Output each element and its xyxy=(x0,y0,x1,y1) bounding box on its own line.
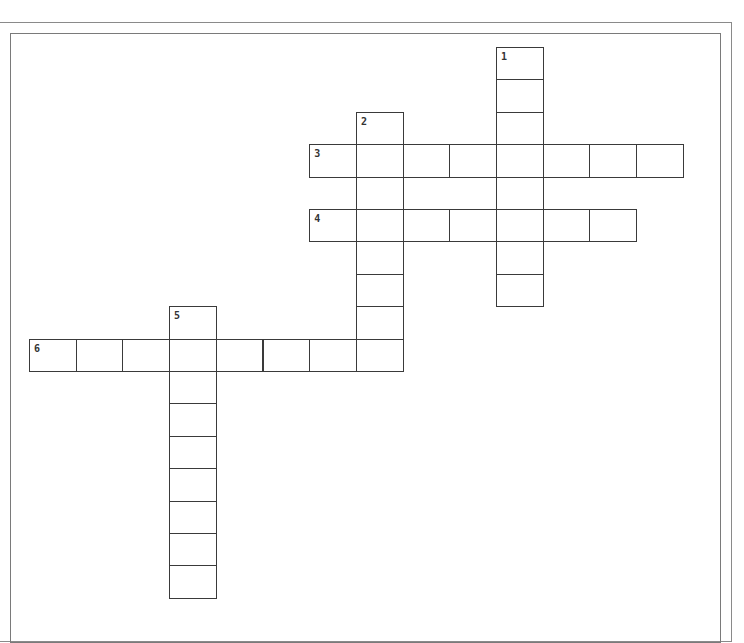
crossword-cell[interactable]: 2 xyxy=(356,112,404,145)
crossword-cell[interactable] xyxy=(169,565,217,598)
crossword-cell[interactable] xyxy=(496,177,544,210)
cell-letter-input[interactable] xyxy=(357,113,403,144)
crossword-cell[interactable] xyxy=(169,501,217,534)
crossword-cell[interactable]: 6 xyxy=(29,339,77,372)
cell-letter-input[interactable] xyxy=(357,340,403,371)
crossword-cell[interactable] xyxy=(356,209,404,242)
crossword-cell[interactable] xyxy=(496,274,544,307)
crossword-cell[interactable] xyxy=(169,436,217,469)
cell-letter-input[interactable] xyxy=(497,242,543,273)
crossword-cell[interactable] xyxy=(356,339,404,372)
crossword-cell[interactable] xyxy=(169,533,217,566)
cell-letter-input[interactable] xyxy=(357,178,403,209)
cell-letter-input[interactable] xyxy=(217,340,263,371)
crossword-cell[interactable] xyxy=(589,209,637,242)
cell-letter-input[interactable] xyxy=(170,372,216,403)
crossword-cell[interactable] xyxy=(636,144,684,177)
cell-letter-input[interactable] xyxy=(310,340,356,371)
crossword-cell[interactable] xyxy=(169,468,217,501)
crossword-cell[interactable] xyxy=(356,144,404,177)
crossword-cell[interactable] xyxy=(543,209,591,242)
cell-letter-input[interactable] xyxy=(450,210,496,241)
cell-letter-input[interactable] xyxy=(404,210,450,241)
cell-letter-input[interactable] xyxy=(170,469,216,500)
crossword-cell[interactable] xyxy=(496,209,544,242)
crossword-cell[interactable] xyxy=(496,144,544,177)
cell-letter-input[interactable] xyxy=(590,145,636,176)
cell-letter-input[interactable] xyxy=(357,275,403,306)
crossword-cell[interactable] xyxy=(449,209,497,242)
cell-letter-input[interactable] xyxy=(357,242,403,273)
cell-letter-input[interactable] xyxy=(170,534,216,565)
cell-letter-input[interactable] xyxy=(170,566,216,597)
crossword-cell[interactable]: 1 xyxy=(496,47,544,80)
cell-letter-input[interactable] xyxy=(357,307,403,338)
crossword-cell[interactable] xyxy=(216,339,264,372)
cell-letter-input[interactable] xyxy=(637,145,683,176)
cell-letter-input[interactable] xyxy=(30,340,76,371)
cell-letter-input[interactable] xyxy=(77,340,123,371)
crossword-cell[interactable] xyxy=(403,144,451,177)
crossword-cell[interactable]: 5 xyxy=(169,306,217,339)
cell-letter-input[interactable] xyxy=(544,145,590,176)
crossword-cell[interactable] xyxy=(356,306,404,339)
crossword-cell[interactable] xyxy=(496,241,544,274)
cell-letter-input[interactable] xyxy=(590,210,636,241)
cell-letter-input[interactable] xyxy=(170,437,216,468)
crossword-cell[interactable] xyxy=(169,371,217,404)
cell-letter-input[interactable] xyxy=(170,307,216,338)
crossword-cell[interactable] xyxy=(76,339,124,372)
cell-letter-input[interactable] xyxy=(497,178,543,209)
cell-letter-input[interactable] xyxy=(310,145,356,176)
crossword-cell[interactable] xyxy=(543,144,591,177)
crossword-cell[interactable] xyxy=(122,339,170,372)
crossword-cell[interactable] xyxy=(449,144,497,177)
cell-letter-input[interactable] xyxy=(170,340,216,371)
crossword-cell[interactable] xyxy=(169,403,217,436)
cell-letter-input[interactable] xyxy=(497,145,543,176)
crossword-cell[interactable] xyxy=(356,274,404,307)
cell-letter-input[interactable] xyxy=(310,210,356,241)
cell-letter-input[interactable] xyxy=(170,404,216,435)
crossword-cell[interactable] xyxy=(356,177,404,210)
cell-letter-input[interactable] xyxy=(357,145,403,176)
cell-letter-input[interactable] xyxy=(497,275,543,306)
cell-letter-input[interactable] xyxy=(497,48,543,79)
cell-letter-input[interactable] xyxy=(497,80,543,111)
crossword-cell[interactable] xyxy=(496,79,544,112)
cell-letter-input[interactable] xyxy=(497,113,543,144)
crossword-cell[interactable] xyxy=(589,144,637,177)
cell-letter-input[interactable] xyxy=(497,210,543,241)
cell-letter-input[interactable] xyxy=(404,145,450,176)
crossword-cell[interactable] xyxy=(496,112,544,145)
crossword-cell[interactable] xyxy=(309,339,357,372)
crossword-cell[interactable] xyxy=(356,241,404,274)
cell-letter-input[interactable] xyxy=(123,340,169,371)
cell-letter-input[interactable] xyxy=(450,145,496,176)
cell-letter-input[interactable] xyxy=(357,210,403,241)
crossword-cell[interactable] xyxy=(403,209,451,242)
cell-letter-input[interactable] xyxy=(264,340,310,371)
crossword-cell[interactable]: 3 xyxy=(309,144,357,177)
cell-letter-input[interactable] xyxy=(544,210,590,241)
crossword-cell[interactable] xyxy=(263,339,311,372)
crossword-cell[interactable]: 4 xyxy=(309,209,357,242)
cell-letter-input[interactable] xyxy=(170,502,216,533)
crossword-cell[interactable] xyxy=(169,339,217,372)
